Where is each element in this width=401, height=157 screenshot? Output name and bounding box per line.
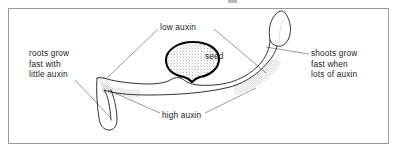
leader-shoots-note xyxy=(266,47,309,54)
label-shoots-note: shoots grow fast when lots of auxin xyxy=(311,48,357,80)
label-high-auxin: high auxin xyxy=(162,110,201,121)
label-seed: seed xyxy=(205,51,224,62)
label-low-auxin: low auxin xyxy=(160,22,196,33)
seed-shape xyxy=(166,42,219,82)
label-roots-note: roots grow fast with little auxin xyxy=(29,48,69,80)
diagram-page: low auxin seed high auxin roots grow fas… xyxy=(0,0,401,157)
leader-high-auxin-right xyxy=(205,88,256,113)
shoot-tip xyxy=(269,11,290,46)
leader-low-auxin-left xyxy=(107,29,158,78)
